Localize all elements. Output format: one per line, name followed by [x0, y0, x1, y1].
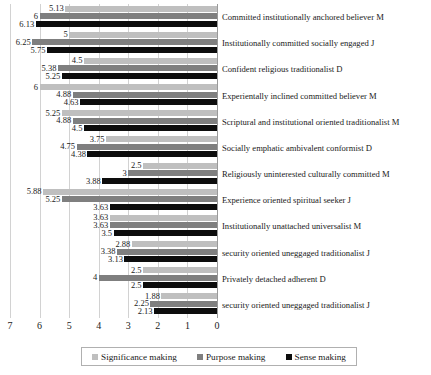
bar-group: 2.883.383.13 [10, 240, 217, 266]
category-label: Privately detached adherent D [222, 266, 431, 292]
bar-group: 5.254.884.5 [10, 109, 217, 135]
bar-value-label: 4.63 [64, 98, 80, 107]
x-tick-1: 1 [185, 320, 190, 332]
x-tick-2: 2 [155, 320, 160, 332]
bar-group: 2.542.5 [10, 266, 217, 292]
bar-value-label: 2.13 [138, 307, 154, 316]
bar-sense-making [84, 125, 217, 131]
bar-group: 4.55.385.25 [10, 56, 217, 82]
legend-swatch-purpose-icon [197, 354, 203, 360]
bar-value-label: 3.75 [90, 135, 106, 144]
value-axis-line [217, 4, 218, 318]
bar-value-label: 6.13 [19, 20, 35, 29]
bar-value-label: 5.25 [45, 195, 61, 204]
category-label: security oriented uneggaged traditionali… [222, 292, 431, 318]
bar-value-label: 2.88 [115, 240, 131, 249]
bar-purpose-making [73, 118, 217, 124]
bar-sense-making [110, 204, 217, 210]
category-label: security oriented uneggaged traditionali… [222, 240, 431, 266]
x-tick-7: 7 [8, 320, 13, 332]
bar-value-label: 2.5 [131, 161, 143, 170]
category-label: Scriptural and institutional oriented tr… [222, 109, 431, 135]
bar-sense-making [143, 282, 217, 288]
x-tick-6: 6 [37, 320, 42, 332]
bar-value-label: 3.88 [86, 177, 102, 186]
x-tick-5: 5 [67, 320, 72, 332]
bar-significance-making [62, 110, 217, 116]
bar-group: 2.533.88 [10, 161, 217, 187]
bar-sense-making [102, 178, 217, 184]
bar-purpose-making [128, 170, 217, 176]
x-tick-0: 0 [215, 320, 220, 332]
bar-purpose-making [150, 301, 217, 307]
bar-purpose-making [110, 222, 217, 228]
bar-purpose-making [58, 65, 217, 71]
horizontal-bar-chart: 5.1366.1356.255.754.55.385.2564.884.635.… [0, 0, 431, 375]
bar-group: 56.255.75 [10, 30, 217, 56]
bar-value-label: 4.5 [72, 124, 84, 133]
bar-value-label: 5.88 [27, 187, 43, 196]
bar-sense-making [62, 73, 217, 79]
bar-sense-making [114, 230, 218, 236]
category-label: Experience oriented spiritual seeker J [222, 187, 431, 213]
bar-purpose-making [73, 92, 217, 98]
legend-swatch-sense-icon [286, 354, 292, 360]
bar-group: 1.882.252.13 [10, 292, 217, 318]
category-label: Committed institutionally anchored belie… [222, 4, 431, 30]
legend-label-sense: Sense making [295, 352, 346, 362]
legend-item-purpose-making: Purpose making [197, 352, 265, 362]
bar-value-label: 5.75 [31, 46, 47, 55]
legend-label-significance: Significance making [101, 352, 177, 362]
bar-significance-making [43, 189, 217, 195]
bar-value-label: 2.5 [131, 281, 143, 290]
legend-item-sense-making: Sense making [286, 352, 346, 362]
bar-purpose-making [62, 196, 217, 202]
bar-sense-making [47, 47, 217, 53]
bar-purpose-making [99, 275, 217, 281]
bar-significance-making [106, 136, 217, 142]
bar-value-label: 6 [34, 83, 40, 92]
bar-value-label: 4.5 [72, 56, 84, 65]
bar-value-label: 4.38 [71, 150, 87, 159]
category-label: Experientally inclined committed believe… [222, 83, 431, 109]
legend-label-purpose: Purpose making [206, 352, 265, 362]
bar-significance-making [132, 241, 217, 247]
bar-value-label: 4 [93, 273, 99, 282]
bar-group: 5.1366.13 [10, 4, 217, 30]
bar-significance-making [69, 32, 217, 38]
category-label-column: Committed institutionally anchored belie… [222, 4, 431, 318]
bar-sense-making [87, 151, 217, 157]
bar-value-label: 5 [63, 30, 69, 39]
bar-sense-making [36, 21, 217, 27]
category-label: Confident religious traditionalist D [222, 56, 431, 82]
bar-value-label: 2.5 [131, 266, 143, 275]
bar-purpose-making [77, 144, 217, 150]
category-label: Socially emphatic ambivalent conformist … [222, 135, 431, 161]
bar-sense-making [124, 256, 217, 262]
plot-area: 5.1366.1356.255.754.55.385.2564.884.635.… [10, 4, 217, 318]
bar-group: 64.884.63 [10, 83, 217, 109]
bar-group: 5.885.253.63 [10, 187, 217, 213]
x-tick-4: 4 [96, 320, 101, 332]
bar-value-label: 5.13 [49, 4, 65, 13]
bar-group: 3.754.754.38 [10, 135, 217, 161]
bar-value-label: 3.63 [93, 203, 109, 212]
bar-sense-making [80, 99, 217, 105]
bar-significance-making [110, 215, 217, 221]
legend-swatch-significance-icon [92, 354, 98, 360]
bar-significance-making [84, 58, 217, 64]
x-tick-3: 3 [126, 320, 131, 332]
bar-purpose-making [32, 39, 217, 45]
legend-item-significance-making: Significance making [92, 352, 177, 362]
bar-value-label: 3.13 [108, 255, 124, 264]
bar-sense-making [154, 308, 217, 314]
x-axis-tick-labels: 76543210 [0, 318, 231, 334]
bar-significance-making [161, 293, 217, 299]
bar-value-label: 3 [123, 169, 129, 178]
bar-value-label: 4.88 [56, 116, 72, 125]
bar-purpose-making [117, 249, 217, 255]
category-label: Institutionally committed socially engag… [222, 30, 431, 56]
bar-significance-making [143, 267, 217, 273]
bar-significance-making [65, 6, 217, 12]
bar-purpose-making [40, 13, 217, 19]
